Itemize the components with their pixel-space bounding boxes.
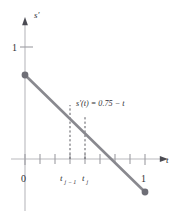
y-tick-label-1: 1 bbox=[12, 42, 17, 53]
figure-container: s′ 1 t 0 1 t j − 1 t j s′(t) = 0.75 − t bbox=[0, 0, 180, 217]
y-axis-arrow-icon bbox=[22, 17, 28, 25]
y-axis-label: s′ bbox=[34, 10, 41, 20]
x-tick-label-tj: t j bbox=[82, 173, 89, 185]
x-axis-label: t bbox=[166, 155, 169, 165]
tj-subscript: j bbox=[86, 179, 89, 185]
x-tick-label-tj-minus-1: t j − 1 bbox=[60, 173, 76, 185]
derivative-graph-svg: s′ 1 t 0 1 t j − 1 t j s′(t) = 0.75 − t bbox=[0, 0, 180, 217]
derivative-line bbox=[25, 75, 145, 192]
endpoint-dot-start bbox=[22, 72, 29, 79]
tj-minus-1-subscript: j − 1 bbox=[64, 179, 77, 185]
equation-label: s′(t) = 0.75 − t bbox=[76, 99, 125, 108]
x-tick-label-1: 1 bbox=[141, 173, 146, 184]
x-origin-label: 0 bbox=[21, 173, 26, 184]
tj-base: t bbox=[82, 173, 85, 183]
endpoint-dot-end bbox=[142, 189, 149, 196]
tj-minus-1-base: t bbox=[60, 173, 63, 183]
